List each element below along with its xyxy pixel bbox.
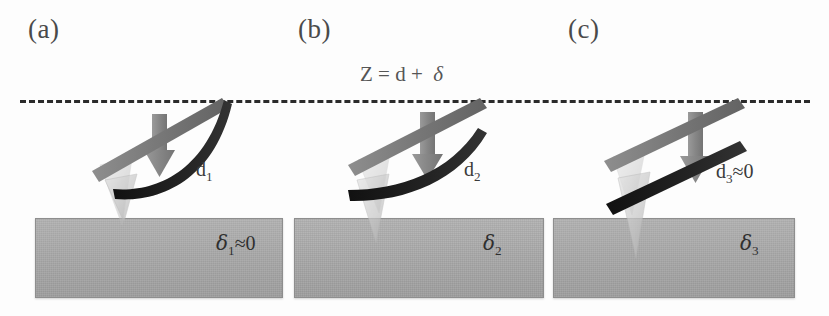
indentation-suffix-a: ≈0 <box>235 232 256 254</box>
equation-plus: + <box>411 62 423 86</box>
substrate-block-c <box>553 218 795 298</box>
panel-label-a: (a) <box>28 14 59 45</box>
deflection-subscript-a: 1 <box>206 169 213 184</box>
deflection-label-c: d3≈0 <box>716 160 754 187</box>
indentation-label-b: δ2 <box>483 231 502 259</box>
deflection-label-b: d2 <box>464 158 481 185</box>
panel-label-c: (c) <box>568 14 599 45</box>
afm-tip-icon-a-undeflected <box>100 158 132 225</box>
indentation-subscript-b: 2 <box>495 243 502 258</box>
equation-equals: = <box>378 62 390 86</box>
indentation-label-a: δ1≈0 <box>216 231 256 259</box>
deflection-symbol-a: d <box>196 158 206 180</box>
afm-indentation-figure: (a) (b) (c) Z = d + δ <box>0 0 829 316</box>
deflection-symbol-b: d <box>464 158 474 180</box>
equation-z: Z <box>360 62 373 86</box>
dashed-reference-line-icon <box>20 100 810 103</box>
down-arrow-icon-a <box>144 114 175 177</box>
panel-label-b: (b) <box>298 14 331 45</box>
indentation-symbol-b: δ <box>483 231 495 255</box>
cantilever-beam-icon-a-deflected <box>113 100 232 199</box>
afm-tip-icon-b-undeflected <box>358 153 390 213</box>
afm-tip-icon-c-undeflected <box>613 151 645 215</box>
down-arrow-icon-b <box>412 112 443 180</box>
indentation-label-c: δ3 <box>740 231 759 259</box>
indentation-symbol-c: δ <box>740 231 752 255</box>
deflection-subscript-b: 2 <box>474 169 481 184</box>
deflection-subscript-c: 3 <box>726 171 733 186</box>
deflection-suffix-c: ≈0 <box>733 160 754 182</box>
reference-plane-equation: Z = d + δ <box>360 62 443 87</box>
indentation-subscript-c: 3 <box>752 243 759 258</box>
substrate-block-b <box>294 218 544 298</box>
deflection-symbol-c: d <box>716 160 726 182</box>
equation-d: d <box>395 62 406 86</box>
afm-tip-icon-a-deflected <box>105 174 137 222</box>
indentation-symbol-a: δ <box>216 231 228 255</box>
equation-delta: δ <box>433 62 443 86</box>
indentation-subscript-a: 1 <box>228 243 235 258</box>
deflection-label-a: d1 <box>196 158 213 185</box>
down-arrow-icon-c <box>680 112 711 183</box>
